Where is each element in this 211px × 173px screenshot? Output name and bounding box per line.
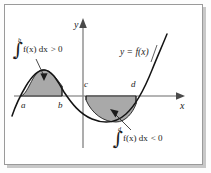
integral-upper-limit: b: [18, 38, 21, 43]
integral-integrand: f(x) d: [123, 133, 143, 143]
curve-label: y = f(x): [120, 48, 149, 58]
tick-label-d: d: [131, 80, 136, 89]
y-axis-arrowhead: [79, 18, 87, 28]
integral-variable: x: [43, 44, 48, 54]
integral-variable: x: [143, 133, 148, 143]
negative-shaded-region: [86, 96, 136, 122]
integral-lower-limit: c: [113, 144, 116, 149]
integral-relation: > 0: [51, 44, 63, 54]
negative-integral-annotation: ∫ d c f(x) dx< 0: [113, 131, 162, 146]
y-axis-label: y: [74, 20, 78, 30]
integral-lower-limit: a: [13, 55, 16, 60]
integral-relation: < 0: [151, 133, 163, 143]
integral-upper-limit: d: [118, 127, 121, 132]
figure-root: y x y = f(x) a b c d ∫ b a f(x) dx> 0 ∫ …: [0, 0, 211, 173]
tick-label-a: a: [21, 101, 26, 110]
x-axis-label: x: [180, 101, 184, 111]
positive-integral-annotation: ∫ b a f(x) dx> 0: [13, 42, 62, 57]
tick-label-c: c: [84, 80, 88, 89]
integral-sign-positive: ∫ b a: [13, 42, 23, 57]
integral-integrand: f(x) d: [23, 44, 43, 54]
plot-canvas: [0, 0, 211, 173]
tick-label-b: b: [58, 101, 63, 110]
integral-sign-negative: ∫ d c: [113, 131, 123, 146]
x-axis-arrowhead: [176, 92, 185, 100]
